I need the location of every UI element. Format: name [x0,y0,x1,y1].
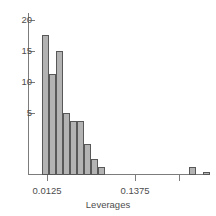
histogram-figure: 20 15 10 5 0.0125 0.1375 Leverages [0,0,216,216]
histogram-bar [91,159,98,175]
histogram-bar [49,74,56,175]
histogram-bar [203,172,210,175]
histogram-bar [84,144,91,175]
histogram-bar [56,51,63,175]
histogram-bar [98,167,105,175]
histogram-bars [0,0,216,216]
histogram-bar [42,35,49,175]
histogram-bar [77,121,84,175]
histogram-bar [70,121,77,175]
histogram-bar [189,167,196,175]
histogram-bar [63,113,70,175]
